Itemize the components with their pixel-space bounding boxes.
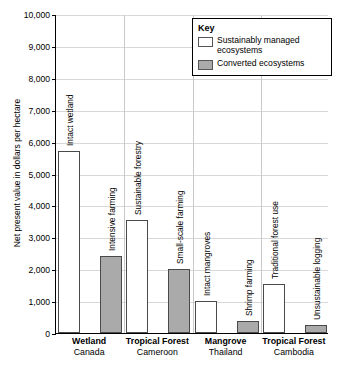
x-axis-category-country: Thailand <box>192 347 260 358</box>
x-axis-category-country: Cambodia <box>260 347 328 358</box>
y-axis-title: Net present value in dollars per hectare <box>12 48 22 298</box>
x-axis-category-name: Tropical Forest <box>123 336 191 347</box>
y-axis-tick <box>52 334 56 335</box>
y-axis-tick <box>52 270 56 271</box>
bar: Sustainable forestry <box>126 220 148 333</box>
legend-label-converted: Converted ecosystems <box>217 59 304 69</box>
y-axis-tick-label: 9,000 <box>28 42 50 52</box>
x-axis-category-name: Mangrove <box>192 336 260 347</box>
y-axis-tick <box>52 175 56 176</box>
x-axis-category-labels: WetlandCanadaTropical ForestCameroonMang… <box>55 336 328 386</box>
y-axis-tick-label: 2,000 <box>28 265 50 275</box>
bar-label: Traditional forest use <box>270 201 280 279</box>
bar: Traditional forest use <box>263 284 285 333</box>
y-axis-tick-label: 10,000 <box>24 10 50 20</box>
y-axis-tick-label: 7,000 <box>28 106 50 116</box>
bar-label: Intact wetland <box>65 94 75 146</box>
x-axis-category: WetlandCanada <box>55 336 123 358</box>
y-axis-tick-label: 0 <box>45 329 50 339</box>
y-axis-tick-label: 4,000 <box>28 201 50 211</box>
y-axis-tick <box>52 238 56 239</box>
y-axis-tick-label: 8,000 <box>28 74 50 84</box>
bar: Intensive farming <box>100 256 122 333</box>
y-axis-tick-label: 3,000 <box>28 233 50 243</box>
legend-entry-converted: Converted ecosystems <box>198 59 326 70</box>
y-axis-tick <box>52 143 56 144</box>
legend-label-sustainably-managed: Sustainably managed ecosystems <box>217 36 326 56</box>
y-axis-tick-label: 1,000 <box>28 297 50 307</box>
y-axis-tick-label: 6,000 <box>28 138 50 148</box>
bar-label: Intact mangroves <box>202 232 212 296</box>
bar: Shrimp farming <box>237 321 259 333</box>
bar-chart: Net present value in dollars per hectare… <box>0 0 339 388</box>
bar-label: Intensive farming <box>107 188 117 252</box>
y-axis-tick-label: 5,000 <box>28 170 50 180</box>
y-axis-tick <box>52 206 56 207</box>
x-axis-category: Tropical ForestCambodia <box>260 336 328 358</box>
y-axis-tick <box>52 79 56 80</box>
chart-legend: Key Sustainably managed ecosystems Conve… <box>192 18 332 76</box>
bar-label: Shrimp farming <box>244 259 254 316</box>
legend-entry-sustainably-managed: Sustainably managed ecosystems <box>198 36 326 56</box>
x-axis-category-country: Canada <box>55 347 123 358</box>
legend-swatch-sustainably-managed <box>198 37 213 47</box>
bar: Small-scale farming <box>168 269 190 333</box>
legend-swatch-converted <box>198 60 213 70</box>
x-axis-category-name: Tropical Forest <box>260 336 328 347</box>
y-axis-tick <box>52 302 56 303</box>
x-axis-category: Tropical ForestCameroon <box>123 336 191 358</box>
bar: Intact wetland <box>58 151 80 333</box>
y-axis-tick <box>52 15 56 16</box>
y-axis-tick <box>52 47 56 48</box>
group-separator <box>124 15 125 333</box>
bar-label: Sustainable forestry <box>133 141 143 215</box>
y-axis-tick <box>52 111 56 112</box>
x-axis-category-country: Cameroon <box>123 347 191 358</box>
x-axis-category-name: Wetland <box>55 336 123 347</box>
bar-label: Unsustainable logging <box>312 238 322 320</box>
bar: Unsustainable logging <box>305 325 327 333</box>
bar: Intact mangroves <box>195 301 217 333</box>
legend-title: Key <box>198 23 326 33</box>
bar-label: Small-scale farming <box>175 191 185 265</box>
x-axis-category: MangroveThailand <box>192 336 260 358</box>
